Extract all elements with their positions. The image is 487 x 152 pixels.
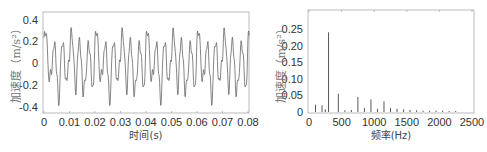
x-tick-labels: 00.010.020.030.040.050.060.070.08: [41, 111, 259, 128]
x-tick-label: 0.08: [237, 116, 258, 128]
x-tick-label: 0.05: [161, 116, 182, 128]
x-tick-label: 2000: [427, 116, 451, 128]
x-axis-label: 频率(Hz): [371, 129, 412, 141]
x-tick-label: 1500: [395, 116, 419, 128]
x-tick-label: 0: [41, 116, 47, 128]
x-tick-label: 0.01: [59, 116, 80, 128]
y-tick-label: 0.4: [23, 14, 38, 26]
x-tick-label: 0.06: [186, 116, 207, 128]
chart-canvas: 0.40.20-0.2-0.4 00.010.020.030.040.050.0…: [0, 0, 487, 152]
y-tick-label: 0.2: [23, 35, 38, 47]
y-tick-label: 0: [297, 106, 303, 118]
y-tick-label: 0: [32, 57, 38, 69]
x-tick-label: 1000: [362, 116, 386, 128]
plot-frame: [308, 10, 474, 113]
y-axis-label: 加速度（m/s²）: [274, 23, 288, 102]
x-tick-label: 0.07: [212, 116, 233, 128]
time-signal-line: [44, 28, 249, 106]
x-tick-labels: 05001000150020002500: [306, 10, 484, 128]
x-axis-label: 时间(s): [129, 129, 162, 141]
y-axis-label: 加速度（m/s²）: [9, 23, 23, 102]
x-tick-label: 0.04: [135, 116, 156, 128]
spectrum-bars: [316, 32, 456, 112]
x-tick-label: 500: [332, 116, 350, 128]
frequency-spectrum-chart: 0.250.200.150.100.050 050010001500200025…: [274, 10, 484, 141]
time-domain-chart: 0.40.20-0.2-0.4 00.010.020.030.040.050.0…: [9, 12, 259, 141]
x-tick-label: 2500: [460, 116, 484, 128]
x-tick-label: 0: [306, 116, 312, 128]
x-tick-label: 0.02: [84, 116, 105, 128]
x-tick-label: 0.03: [110, 116, 131, 128]
